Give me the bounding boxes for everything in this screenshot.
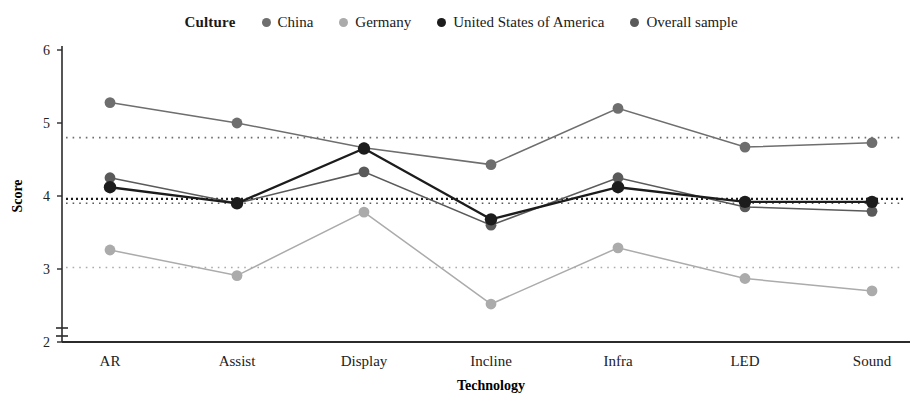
- data-point-china-ar[interactable]: [105, 97, 116, 108]
- x-axis-title: Technology: [457, 378, 525, 393]
- data-point-germany-incline[interactable]: [486, 299, 497, 310]
- data-point-china-led[interactable]: [740, 142, 751, 153]
- y-tick-label-6: 6: [43, 43, 50, 58]
- y-tick-label-3: 3: [43, 262, 50, 277]
- data-point-china-assist[interactable]: [232, 118, 243, 129]
- x-tick-label-infra: Infra: [603, 353, 632, 369]
- data-point-overall-sample-display[interactable]: [359, 167, 370, 178]
- y-axis-break-icon: [56, 328, 68, 342]
- x-tick-label-display: Display: [341, 353, 388, 369]
- x-tick-label-assist: Assist: [219, 353, 257, 369]
- x-tick-label-incline: Incline: [470, 353, 512, 369]
- y-tick-label-5: 5: [43, 116, 50, 131]
- plot-area: 65432ScoreARAssistDisplayInclineInfraLED…: [0, 0, 922, 419]
- data-point-united-states-of-america-led[interactable]: [739, 196, 751, 208]
- data-point-germany-infra[interactable]: [613, 242, 624, 253]
- y-axis-title: Score: [10, 179, 25, 212]
- data-point-germany-assist[interactable]: [232, 270, 243, 281]
- data-point-united-states-of-america-sound[interactable]: [866, 196, 878, 208]
- x-tick-label-led: LED: [730, 353, 759, 369]
- data-point-united-states-of-america-assist[interactable]: [231, 197, 243, 209]
- data-point-germany-ar[interactable]: [105, 245, 116, 256]
- line-chart: Culture China Germany United States of A…: [0, 0, 922, 419]
- data-point-germany-sound[interactable]: [867, 286, 878, 297]
- data-point-united-states-of-america-ar[interactable]: [104, 181, 116, 193]
- y-tick-label-4: 4: [43, 189, 50, 204]
- y-tick-label-2: 2: [43, 335, 50, 350]
- plot-svg: 65432ScoreARAssistDisplayInclineInfraLED…: [0, 0, 922, 419]
- data-point-united-states-of-america-display[interactable]: [358, 142, 370, 154]
- data-point-united-states-of-america-infra[interactable]: [612, 181, 624, 193]
- x-tick-label-sound: Sound: [853, 353, 892, 369]
- data-point-china-infra[interactable]: [613, 103, 624, 114]
- data-point-germany-led[interactable]: [740, 273, 751, 284]
- data-point-germany-display[interactable]: [359, 207, 370, 218]
- data-point-china-sound[interactable]: [867, 137, 878, 148]
- series-line-china: [110, 103, 872, 165]
- data-point-china-incline[interactable]: [486, 159, 497, 170]
- data-point-united-states-of-america-incline[interactable]: [485, 213, 497, 225]
- x-tick-label-ar: AR: [100, 353, 121, 369]
- series-line-united-states-of-america: [110, 149, 872, 220]
